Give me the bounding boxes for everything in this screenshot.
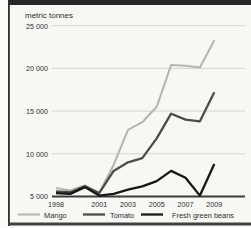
legend: MangoTomatoFresh green beans <box>18 211 234 220</box>
y-tick-label: 20 000 <box>26 64 48 73</box>
y-tick-label: 10 000 <box>26 150 48 159</box>
chart-title: metric tonnes <box>25 11 73 20</box>
x-tick-label: 2009 <box>206 200 222 209</box>
y-tick-label: 5 000 <box>30 192 48 201</box>
frame-bottom-bar <box>8 223 251 226</box>
x-tick-label: 2005 <box>149 200 165 209</box>
legend-label-tomato: Tomato <box>110 211 134 220</box>
x-tick-label: 1998 <box>48 200 64 209</box>
legend-label-fresh-green-beans: Fresh green beans <box>172 211 234 220</box>
y-tick-label: 15 000 <box>26 107 48 116</box>
frame-left-line <box>8 0 10 226</box>
x-tick-label: 2003 <box>120 200 136 209</box>
legend-label-mango: Mango <box>44 211 67 220</box>
x-tick-label: 2007 <box>178 200 194 209</box>
scanned-line-chart: metric tonnes 5 00010 00015 00020 00025 … <box>0 0 251 228</box>
x-tick-label: 2001 <box>91 200 107 209</box>
line-chart: metric tonnes 5 00010 00015 00020 00025 … <box>0 0 251 228</box>
frame-top-bar <box>8 0 251 5</box>
y-tick-label: 25 000 <box>26 22 48 31</box>
